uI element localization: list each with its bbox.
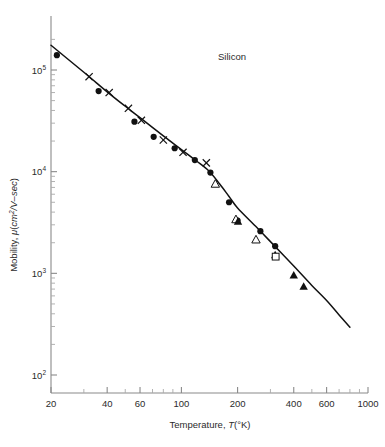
marker-open-square	[272, 253, 279, 260]
marker-filled-circle	[257, 228, 263, 234]
silicon-annotation: Silicon	[218, 51, 246, 62]
x-tick-label-40: 40	[102, 398, 113, 409]
x-tick-label-100: 100	[173, 398, 189, 409]
marker-filled-circle	[172, 145, 178, 151]
x-tick-label-600: 600	[319, 398, 335, 409]
x-tick-label-400: 400	[286, 398, 302, 409]
x-tick-label-60: 60	[135, 398, 146, 409]
marker-filled-circle	[207, 169, 213, 175]
x-tick-label-1000: 1000	[357, 398, 378, 409]
marker-filled-circle	[96, 88, 102, 94]
marker-filled-circle	[192, 157, 198, 163]
marker-filled-circle	[226, 199, 232, 205]
marker-filled-circle	[54, 52, 60, 58]
figure-container: 2040601002004006001000 105104103102 Sili…	[0, 0, 385, 447]
mobility-vs-temperature-chart: 2040601002004006001000 105104103102 Sili…	[0, 0, 385, 447]
y-axis-title: Mobility, μ(cm2/V–sec)	[8, 178, 19, 272]
marker-filled-circle	[151, 134, 157, 140]
x-tick-label-20: 20	[46, 398, 57, 409]
marker-filled-circle	[131, 119, 137, 125]
chart-background	[0, 0, 385, 447]
x-tick-label-200: 200	[230, 398, 246, 409]
x-axis-title: Temperature, T(°K)	[170, 419, 251, 430]
marker-filled-circle	[272, 243, 278, 249]
